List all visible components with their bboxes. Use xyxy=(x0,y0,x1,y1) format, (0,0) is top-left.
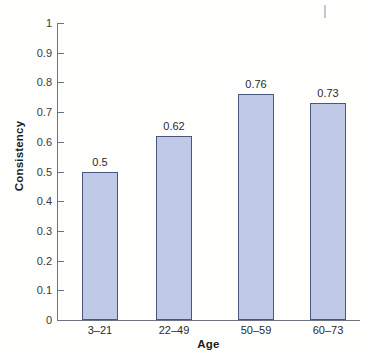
x-axis-category-label: 50–59 xyxy=(226,325,286,336)
y-axis-tick-label: 0.2 xyxy=(2,256,52,267)
x-axis-category-label: 22–49 xyxy=(144,325,204,336)
y-axis-tick xyxy=(58,82,64,83)
y-axis-tick xyxy=(58,172,64,173)
y-axis-tick xyxy=(58,231,64,232)
y-axis-tick-label: 0 xyxy=(2,315,52,326)
y-axis-tick-label: 0.3 xyxy=(2,226,52,237)
y-axis-tick-label: 0.9 xyxy=(2,48,52,59)
bar-value-label: 0.76 xyxy=(231,79,281,90)
y-axis-tick xyxy=(58,261,64,262)
y-axis-tick-label: 0.4 xyxy=(2,196,52,207)
bar xyxy=(238,94,274,320)
scan-artifact-mark xyxy=(324,5,326,18)
y-axis-tick-label: 0.1 xyxy=(2,285,52,296)
y-axis-tick-label: 1 xyxy=(2,18,52,29)
bar xyxy=(310,103,346,320)
x-axis-category-label: 60–73 xyxy=(298,325,358,336)
y-axis-tick-label: 0.5 xyxy=(2,167,52,178)
x-axis-line xyxy=(57,320,360,321)
y-axis-tick-label: 0.7 xyxy=(2,107,52,118)
bar xyxy=(156,136,192,320)
bar-value-label: 0.62 xyxy=(149,121,199,132)
y-axis-tick xyxy=(58,142,64,143)
bar-chart: 00.10.20.30.40.50.60.70.80.91 Consistenc… xyxy=(0,0,367,361)
y-axis-tick xyxy=(58,320,64,321)
y-axis-tick xyxy=(58,201,64,202)
bar xyxy=(82,172,118,321)
y-axis-tick xyxy=(58,112,64,113)
y-axis-tick xyxy=(58,290,64,291)
x-axis-title: Age xyxy=(57,338,360,350)
bar-value-label: 0.73 xyxy=(303,88,353,99)
x-axis-category-label: 3–21 xyxy=(70,325,130,336)
bar-value-label: 0.5 xyxy=(75,157,125,168)
y-axis-tick-label: 0.8 xyxy=(2,77,52,88)
y-axis-title: Consistency xyxy=(13,106,25,206)
y-axis-tick-label: 0.6 xyxy=(2,137,52,148)
y-axis-tick xyxy=(58,53,64,54)
y-axis-tick xyxy=(58,23,64,24)
